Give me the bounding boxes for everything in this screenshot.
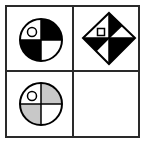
cell-bottom-right-empty bbox=[74, 72, 138, 136]
bottom-left-black-triangle bbox=[83, 38, 109, 51]
empty-answer-slot bbox=[74, 72, 138, 136]
quadrant-diamond-figure bbox=[83, 13, 135, 64]
small-circle-icon bbox=[28, 92, 37, 101]
cell-bottom-left bbox=[20, 83, 62, 125]
small-circle-icon bbox=[28, 28, 37, 37]
puzzle-grid bbox=[0, 0, 146, 142]
quadrant-circle-figure bbox=[20, 83, 62, 125]
quadrant-circle-figure bbox=[20, 19, 62, 61]
small-square-icon bbox=[98, 29, 105, 36]
cell-top-right bbox=[83, 13, 135, 64]
cell-top-left bbox=[20, 19, 62, 61]
top-right-black-triangle bbox=[109, 13, 122, 38]
